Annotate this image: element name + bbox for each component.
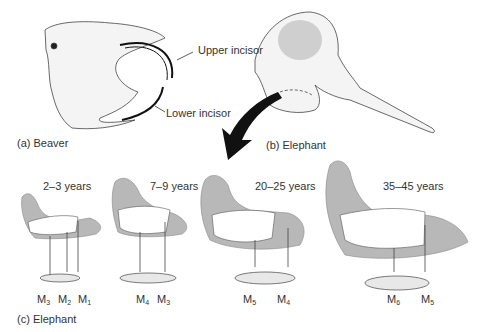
upper-incisor-label: Upper incisor — [198, 45, 263, 56]
elephant-skull — [255, 12, 434, 133]
molar-label: M3 — [157, 293, 170, 306]
caption-elephant-skull: (b) Elephant — [266, 140, 326, 151]
molar-label: M4 — [136, 293, 149, 306]
molar-label: M2 — [58, 293, 71, 306]
molar-label: M4 — [277, 293, 290, 306]
age-label-2-3: 2–3 years — [43, 180, 91, 192]
caption-beaver: (a) Beaver — [17, 138, 68, 149]
jaw-35-45-years — [326, 161, 468, 258]
lower-incisor-label: Lower incisor — [166, 108, 231, 119]
caption-elephant-jaws: (c) Elephant — [17, 314, 76, 325]
molar-label: M5 — [421, 293, 434, 306]
age-label-35-45: 35–45 years — [383, 180, 444, 192]
beaver-skull — [45, 22, 172, 129]
molar-label: M5 — [243, 293, 256, 306]
isolated-molars — [40, 272, 429, 290]
age-label-7-9: 7–9 years — [150, 180, 198, 192]
molar-label: M1 — [78, 293, 91, 306]
molar-label: M6 — [387, 293, 400, 306]
jaw-2-3-years — [22, 194, 101, 239]
molar-label: M3 — [37, 293, 50, 306]
age-label-20-25: 20–25 years — [255, 180, 316, 192]
